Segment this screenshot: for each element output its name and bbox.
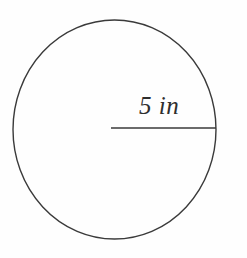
circle-outline	[13, 20, 216, 239]
figure-canvas	[0, 0, 247, 258]
radius-length-label: 5 in	[139, 93, 179, 118]
geometry-figure: 5 in	[0, 0, 247, 258]
